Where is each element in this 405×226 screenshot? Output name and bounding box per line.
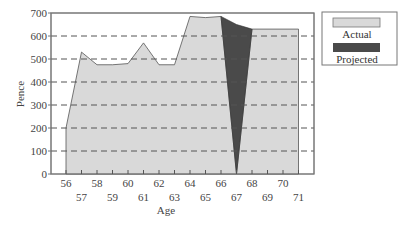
legend: Actual Projected xyxy=(322,12,397,65)
legend-swatch-projected xyxy=(333,43,380,52)
x-tick-label: 62 xyxy=(154,177,165,189)
x-tick-label: 56 xyxy=(61,177,73,189)
y-tick-label: 700 xyxy=(31,7,48,19)
y-tick-label: 400 xyxy=(31,76,48,88)
x-tick-label: 63 xyxy=(169,191,181,203)
x-axis-ticks: 56586062646668705759616365676971 xyxy=(61,170,305,203)
y-tick-label: 0 xyxy=(42,168,48,180)
x-tick-label: 60 xyxy=(123,177,135,189)
x-axis-title: Age xyxy=(157,204,175,216)
y-tick-label: 300 xyxy=(31,99,48,111)
x-tick-label: 69 xyxy=(262,191,274,203)
x-tick-label: 57 xyxy=(76,191,88,203)
x-tick-label: 61 xyxy=(138,191,149,203)
y-axis-ticks: 0100200300400500600700 xyxy=(31,7,52,180)
chart: 0100200300400500600700 56586062646668705… xyxy=(0,0,405,226)
x-tick-label: 65 xyxy=(200,191,212,203)
y-tick-label: 500 xyxy=(31,53,48,65)
x-tick-label: 58 xyxy=(92,177,104,189)
legend-label-projected: Projected xyxy=(336,53,378,65)
x-tick-label: 70 xyxy=(278,177,290,189)
x-tick-label: 67 xyxy=(231,191,243,203)
x-tick-label: 68 xyxy=(247,177,259,189)
x-tick-label: 64 xyxy=(185,177,197,189)
x-tick-label: 66 xyxy=(216,177,228,189)
legend-swatch-actual xyxy=(333,18,380,27)
y-axis-title: Pence xyxy=(14,81,26,107)
legend-label-actual: Actual xyxy=(342,28,371,40)
y-tick-label: 600 xyxy=(31,30,48,42)
x-tick-label: 71 xyxy=(293,191,304,203)
y-tick-label: 100 xyxy=(31,145,48,157)
y-tick-label: 200 xyxy=(31,122,48,134)
plot-area xyxy=(51,13,314,174)
x-tick-label: 59 xyxy=(107,191,119,203)
